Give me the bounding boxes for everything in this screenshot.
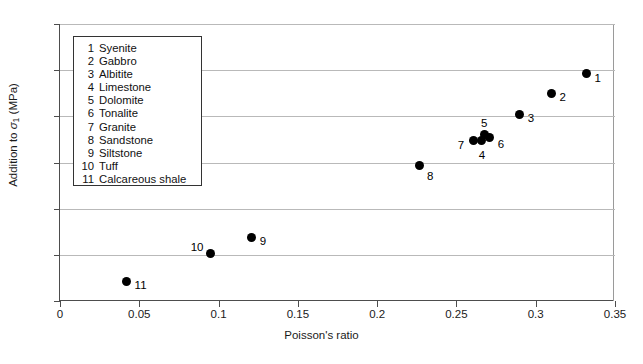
- data-point-label: 11: [135, 280, 147, 292]
- legend-row: 2Gabbro: [74, 55, 201, 68]
- legend-row: 11Calcareous shale: [74, 173, 201, 186]
- legend-label: Calcareous shale: [94, 173, 186, 186]
- y-axis-title: Addition to σ1 (MPa): [7, 35, 21, 235]
- data-point-label: 1: [594, 73, 600, 85]
- x-axis-tick-label: 0.3: [506, 309, 566, 321]
- data-point-label: 6: [498, 139, 504, 151]
- x-axis-tick: [139, 301, 140, 307]
- legend-row: 7Granite: [74, 121, 201, 134]
- x-axis-tick: [615, 301, 616, 307]
- y-axis-title-prefix: Addition to: [7, 129, 19, 187]
- legend-key: 10: [74, 160, 94, 173]
- data-point-label: 8: [427, 171, 433, 183]
- legend-row: 3Albitite: [74, 68, 201, 81]
- legend-key: 6: [74, 107, 94, 120]
- sigma-subscript: 1: [11, 118, 21, 123]
- y-axis-tick: [54, 163, 60, 164]
- x-axis-tick: [219, 301, 220, 307]
- x-axis-tick: [298, 301, 299, 307]
- data-point-label: 4: [479, 150, 485, 162]
- gridline: [60, 209, 615, 210]
- gridline: [60, 24, 615, 25]
- data-point[interactable]: [582, 69, 591, 78]
- data-point[interactable]: [247, 233, 256, 242]
- data-point[interactable]: [469, 136, 478, 145]
- x-axis-title: Poisson's ratio: [0, 329, 643, 341]
- data-point[interactable]: [206, 249, 215, 258]
- legend-key: 2: [74, 55, 94, 68]
- legend-label: Siltstone: [94, 147, 142, 160]
- y-axis-tick: [54, 255, 60, 256]
- scatter-chart-figure: Addition to σ1 (MPa) Poisson's ratio 024…: [0, 0, 643, 364]
- legend-box: 1Syenite2Gabbro3Albitite4Limestone5Dolom…: [73, 36, 202, 186]
- data-point[interactable]: [547, 89, 556, 98]
- data-point-label: 9: [260, 236, 266, 248]
- legend-row: 10Tuff: [74, 160, 201, 173]
- x-axis-tick: [60, 301, 61, 307]
- legend-label: Syenite: [94, 42, 137, 55]
- data-point[interactable]: [485, 133, 494, 142]
- data-point-label: 3: [528, 113, 534, 125]
- legend-label: Tuff: [94, 160, 118, 173]
- legend-label: Albitite: [94, 68, 133, 81]
- x-axis-tick-label: 0.25: [426, 309, 486, 321]
- legend-key: 3: [74, 68, 94, 81]
- data-point[interactable]: [122, 277, 131, 286]
- legend-label: Limestone: [94, 81, 151, 94]
- x-axis-tick-label: 0.35: [585, 309, 643, 321]
- x-axis-tick-label: 0.2: [347, 309, 407, 321]
- legend-key: 1: [74, 42, 94, 55]
- legend-key: 8: [74, 134, 94, 147]
- legend-row: 5Dolomite: [74, 94, 201, 107]
- legend-row: 8Sandstone: [74, 134, 201, 147]
- data-point-label: 7: [458, 140, 464, 152]
- legend-row: 9Siltstone: [74, 147, 201, 160]
- x-axis-tick: [456, 301, 457, 307]
- y-axis-tick: [54, 70, 60, 71]
- y-axis-tick: [54, 209, 60, 210]
- legend-label: Tonalite: [94, 107, 138, 120]
- data-point[interactable]: [515, 110, 524, 119]
- y-axis-title-suffix: (MPa): [7, 83, 19, 118]
- legend-label: Dolomite: [94, 94, 144, 107]
- x-axis-tick-label: 0.05: [109, 309, 169, 321]
- data-point-label: 2: [560, 92, 566, 104]
- x-axis-tick: [377, 301, 378, 307]
- y-axis-tick: [54, 116, 60, 117]
- legend-label: Sandstone: [94, 134, 153, 147]
- legend-key: 4: [74, 81, 94, 94]
- legend-row: 6Tonalite: [74, 107, 201, 120]
- x-axis-tick-label: 0: [30, 309, 90, 321]
- gridline: [60, 255, 615, 256]
- sigma-symbol: σ: [7, 122, 19, 129]
- legend-row: 4Limestone: [74, 81, 201, 94]
- legend-row: 1Syenite: [74, 42, 201, 55]
- data-point[interactable]: [415, 161, 424, 170]
- legend-label: Gabbro: [94, 55, 137, 68]
- legend-label: Granite: [94, 121, 136, 134]
- x-axis-tick-label: 0.1: [189, 309, 249, 321]
- x-axis-tick: [536, 301, 537, 307]
- legend-key: 5: [74, 94, 94, 107]
- data-point-label: 10: [191, 242, 204, 254]
- legend-key: 9: [74, 147, 94, 160]
- legend-key: 7: [74, 121, 94, 134]
- data-point-label: 5: [481, 118, 487, 130]
- y-axis-tick: [54, 24, 60, 25]
- x-axis-tick-label: 0.15: [268, 309, 328, 321]
- legend-key: 11: [74, 173, 94, 186]
